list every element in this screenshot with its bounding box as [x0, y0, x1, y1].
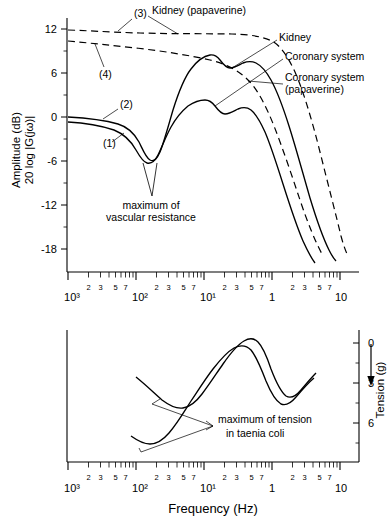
curve-tension-upper — [136, 339, 316, 408]
bottom-panel: 0 3 6 Tension (g) — [64, 330, 386, 494]
curve-tension-lower — [131, 346, 314, 444]
top-xminor-2c: 2 — [222, 283, 226, 292]
leader-tension-lower — [139, 426, 213, 452]
bot-xminor-7d: 7 — [327, 473, 331, 482]
bot-xminor-3a: 3 — [98, 473, 102, 482]
curve-coronary — [68, 100, 315, 263]
bot-xmajor-10: 10 — [335, 482, 347, 494]
bot-xminor-2c: 2 — [222, 473, 226, 482]
leader-kidney-papaverine — [148, 16, 178, 34]
bot-xminor-5d: 5 — [317, 473, 321, 482]
leader-tag-2 — [103, 109, 118, 119]
label-coronary-papaverine-l2: (papaverine) — [285, 83, 344, 95]
callout-vascular-line2: vascular resistance — [106, 211, 196, 223]
top-ylabel-line1: Amplitude (dB) — [10, 112, 22, 188]
label-coronary: Coronary system — [285, 50, 365, 62]
callout-tension-line1: maximum of tension — [218, 413, 312, 425]
bot-xmajor-1e2: 10² — [132, 482, 148, 494]
bot-xminor-2d: 2 — [290, 473, 294, 482]
bot-xminor-5c: 5 — [249, 473, 253, 482]
top-xminor-3a: 3 — [98, 283, 102, 292]
bot-xminor-5b: 5 — [181, 473, 185, 482]
top-xminor-5a: 5 — [113, 283, 117, 292]
leader-kidney — [232, 40, 277, 68]
top-ytick-neg12: -12 — [41, 199, 57, 211]
tag-4: (4) — [99, 68, 112, 80]
bot-xminor-3d: 3 — [302, 473, 306, 482]
bot-xmajor-1e1: 10¹ — [200, 482, 216, 494]
top-xminor-7c: 7 — [259, 283, 263, 292]
tag-3: (3) — [134, 7, 147, 19]
top-xminor-3d: 3 — [302, 283, 306, 292]
top-ylabel-line2: 20 log |G(jω)| — [23, 116, 35, 185]
bottom-x-minor-labels: 2 3 5 7 2 3 5 7 2 3 5 7 2 3 5 7 — [86, 473, 331, 482]
bottom-y-ticks — [353, 343, 359, 443]
leader-tag-4 — [95, 44, 104, 67]
top-xmajor-10: 10 — [335, 291, 347, 303]
bottom-ylabel: Tension (g) — [374, 361, 386, 418]
top-xminor-7a: 7 — [123, 283, 127, 292]
bot-xminor-3c: 3 — [234, 473, 238, 482]
top-xminor-5d: 5 — [317, 283, 321, 292]
leader-tag-3 — [118, 19, 132, 31]
top-x-ticks — [68, 272, 340, 280]
tag-1: (1) — [103, 137, 116, 149]
top-ytick-neg18: -18 — [41, 243, 57, 255]
bottom-x-ticks — [68, 462, 340, 470]
top-xminor-2b: 2 — [154, 283, 158, 292]
top-xmajor-1e1: 10¹ — [200, 291, 216, 303]
top-panel: 12 6 0 -6 -12 -18 Amplitude (dB) 20 log … — [10, 4, 365, 303]
x-axis-title: Frequency (Hz) — [168, 501, 258, 516]
callout-vascular-line1: maximum of — [122, 199, 179, 211]
top-xmajor-1e3: 10³ — [64, 291, 80, 303]
bode-figure: 12 6 0 -6 -12 -18 Amplitude (dB) 20 log … — [0, 0, 390, 524]
top-x-major-labels: 10³ 10² 10¹ 1 10 — [64, 291, 347, 303]
bot-xminor-7a: 7 — [123, 473, 127, 482]
leader-tension-upper — [152, 399, 213, 426]
callout-wedge-vascular — [143, 163, 157, 196]
top-xminor-5c: 5 — [249, 283, 253, 292]
bot-xminor-2a: 2 — [86, 473, 90, 482]
bot-xminor-7b: 7 — [191, 473, 195, 482]
label-coronary-papaverine-l1: Coronary system — [285, 71, 365, 83]
bottom-x-major-labels: 10³ 10² 10¹ 1 10 — [64, 482, 347, 494]
top-xminor-7d: 7 — [327, 283, 331, 292]
top-xminor-3c: 3 — [234, 283, 238, 292]
bot-xmajor-1: 1 — [269, 482, 275, 494]
top-xmajor-1e2: 10² — [132, 291, 148, 303]
top-xminor-7b: 7 — [191, 283, 195, 292]
bot-xminor-2b: 2 — [154, 473, 158, 482]
bot-xmajor-1e3: 10³ — [64, 482, 80, 494]
bot-xminor-3b: 3 — [166, 473, 170, 482]
top-xmajor-1: 1 — [269, 291, 275, 303]
label-kidney: Kidney — [279, 31, 312, 43]
top-xminor-2a: 2 — [86, 283, 90, 292]
top-xminor-2d: 2 — [290, 283, 294, 292]
top-ytick-6: 6 — [51, 67, 57, 79]
top-ytick-neg6: -6 — [47, 155, 57, 167]
bot-xminor-7c: 7 — [259, 473, 263, 482]
bot-xminor-5a: 5 — [113, 473, 117, 482]
figure-container: 12 6 0 -6 -12 -18 Amplitude (dB) 20 log … — [0, 0, 390, 524]
top-xminor-3b: 3 — [166, 283, 170, 292]
label-kidney-papaverine: Kidney (papaverine) — [152, 4, 246, 16]
leader-coronary-papaverine — [248, 81, 283, 84]
top-xminor-5b: 5 — [181, 283, 185, 292]
tag-2: (2) — [120, 98, 133, 110]
top-ytick-0: 0 — [51, 111, 57, 123]
callout-tension-line2: in taenia coli — [226, 427, 284, 439]
top-ytick-12: 12 — [45, 23, 57, 35]
leader-tension-arrowhead — [206, 421, 213, 430]
